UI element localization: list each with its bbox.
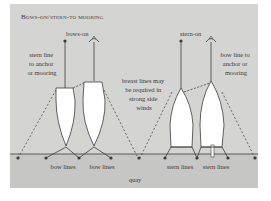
label-bow-lines-1: bow lines (50, 163, 76, 170)
label-stern-on: stern-on (180, 30, 202, 37)
anchor-point-icon (179, 39, 182, 42)
label-bows-on: bows-on (66, 30, 89, 37)
label-bow-lines-2: bow lines (89, 163, 115, 170)
label-stern-lines-2: stern lines (203, 163, 230, 170)
label-stern-line: stern line to anchor or mooring (27, 51, 57, 76)
anchor-point-icon (63, 39, 66, 42)
label-quay: quay (129, 176, 142, 183)
mooring-diagram: Bows-on/stern-to mooring (0, 0, 271, 201)
diagram-title: Bows-on/stern-to mooring (21, 13, 104, 21)
label-bow-line: bow line to anchor or mooring (221, 51, 252, 76)
label-stern-lines-1: stern lines (167, 163, 194, 170)
